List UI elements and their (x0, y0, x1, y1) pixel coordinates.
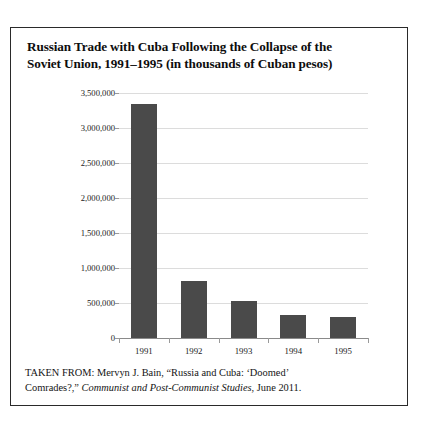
source-caption: TAKEN FROM: Mervyn J. Bain, “Russia and … (25, 366, 397, 395)
caption-journal-title: Communist and Post-Communist Studies (82, 382, 252, 393)
y-axis-tick-mark (115, 303, 119, 304)
bar-chart: 0500,0001,000,0001,500,0002,000,0002,500… (11, 28, 409, 407)
bar-1995 (330, 317, 356, 338)
bar-1994 (280, 315, 306, 338)
y-axis-tick-mark (115, 128, 119, 129)
x-axis-tick-mark (119, 338, 120, 343)
y-axis-tick-label: 1,000,000 (45, 264, 115, 273)
x-axis-tick-mark (169, 338, 170, 343)
bar-1991 (131, 104, 157, 339)
y-axis-tick-mark (115, 163, 119, 164)
x-axis-tick-label: 1995 (313, 346, 373, 356)
y-axis-tick-label: 0 (45, 334, 115, 343)
caption-line-1: TAKEN FROM: Mervyn J. Bain, “Russia and … (25, 366, 397, 381)
x-axis-tick-mark (318, 338, 319, 343)
y-axis-tick-mark (115, 198, 119, 199)
y-axis-tick-label: 2,500,000 (45, 159, 115, 168)
y-axis-tick-label: 3,000,000 (45, 124, 115, 133)
bar-1993 (231, 301, 257, 338)
caption-line-2-prefix: Comrades?,” (25, 382, 82, 393)
caption-line-2-suffix: , June 2011. (252, 382, 302, 393)
bar-1992 (181, 281, 207, 338)
y-axis-tick-mark (115, 233, 119, 234)
x-axis-tick-mark (219, 338, 220, 343)
y-axis-tick-label: 3,500,000 (45, 89, 115, 98)
gridline (119, 93, 368, 94)
y-axis-tick-label: 2,000,000 (45, 194, 115, 203)
figure-container: Russian Trade with Cuba Following the Co… (10, 27, 408, 406)
y-axis-labels: 0500,0001,000,0001,500,0002,000,0002,500… (41, 93, 115, 338)
y-axis-tick-label: 1,500,000 (45, 229, 115, 238)
caption-line-2: Comrades?,” Communist and Post-Communist… (25, 381, 397, 396)
plot-area (119, 93, 368, 338)
y-axis-tick-mark (115, 93, 119, 94)
x-axis-tick-mark (368, 338, 369, 343)
x-axis-line (119, 338, 369, 339)
x-axis-tick-mark (268, 338, 269, 343)
y-axis-tick-label: 500,000 (45, 299, 115, 308)
y-axis-tick-mark (115, 268, 119, 269)
